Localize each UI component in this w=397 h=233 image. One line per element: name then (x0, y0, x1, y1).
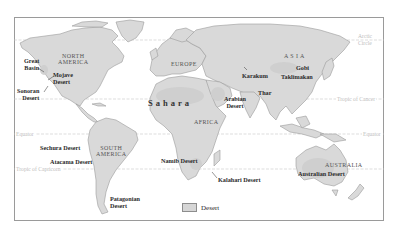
arctic-circle-label-2: Circle (358, 40, 372, 46)
thar-label: Thar (258, 90, 271, 97)
taklimakan-label: Taklimakan (281, 74, 313, 81)
legend: Desert (182, 203, 219, 212)
atacama-label: Atacama Desert (50, 159, 92, 166)
greenland-shape (116, 20, 144, 42)
arabian-area (211, 87, 225, 101)
mojave-line2: Desert (53, 79, 73, 86)
australia-label: AUSTRALIA (325, 162, 363, 168)
namib-label: Namib Desert (161, 158, 198, 165)
madagascar-shape (214, 150, 220, 166)
south-america-line2: AMERICA (96, 151, 126, 157)
mojave-label: Mojave Desert (53, 72, 73, 85)
tropic-of-cancer-label: Tropic of Cancer (336, 96, 376, 102)
north-america-line2: AMERICA (58, 59, 88, 65)
europe-label: EUROPE (171, 61, 197, 67)
world-map (0, 0, 397, 233)
sonoran-label: Sonoran Desert (17, 88, 39, 101)
equator-label-right: Equator (362, 131, 382, 137)
legend-label: Desert (201, 204, 219, 212)
arabian-line2: Desert (224, 103, 246, 110)
new-zealand-shape (348, 184, 364, 200)
arctic-circle-label-1: Arctic (358, 33, 372, 39)
kalahari-pointer (212, 172, 217, 178)
south-america-label: SOUTH AMERICA (96, 145, 126, 158)
sahara-label: Sahara (148, 98, 192, 108)
asia-label: A S I A (284, 53, 305, 59)
sonoran-pointer (44, 86, 48, 92)
sonoran-line2: Desert (17, 95, 39, 102)
arabian-label: Arabian Desert (224, 96, 246, 109)
karakum-label: Karakum (242, 73, 268, 80)
sechura-label: Sechura Desert (40, 145, 80, 152)
gobi-label: Gobi (296, 65, 309, 72)
caribbean-shape (92, 103, 106, 106)
desert-swatch (182, 203, 197, 212)
australian-desert-label: Australian Desert (298, 171, 345, 178)
africa-label: AFRICA (194, 119, 218, 125)
tasmania-shape (332, 190, 338, 196)
great-basin-line2: Basin (24, 65, 39, 72)
patagonian-line2: Desert (110, 203, 140, 210)
central-america-shape (76, 104, 98, 122)
patagonian-label: Patagonian Desert (110, 196, 140, 209)
arctic-islands-shape (72, 21, 108, 27)
new-guinea-shape (320, 134, 346, 142)
kalahari-label: Kalahari Desert (218, 177, 260, 184)
north-america-label: NORTH AMERICA (58, 53, 88, 66)
great-basin-label: Great Basin (24, 58, 39, 71)
tropic-of-capricorn-label: Tropic of Capricorn (15, 166, 62, 172)
equator-label-left: Equator (15, 131, 35, 137)
